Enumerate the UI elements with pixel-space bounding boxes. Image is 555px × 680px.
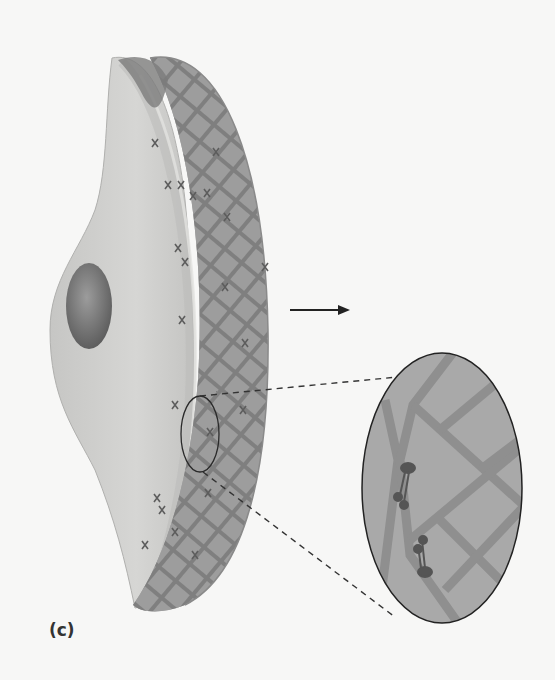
panel-label: (c) [49, 620, 75, 640]
right-arrow [290, 305, 350, 315]
diagram-canvas [0, 0, 555, 680]
magnified-inset [362, 350, 540, 640]
nucleus [66, 263, 112, 349]
